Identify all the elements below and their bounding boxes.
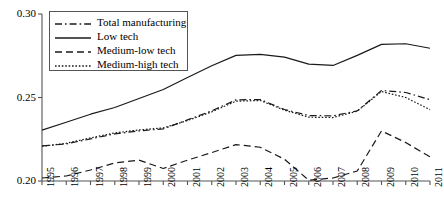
y-tick-label: 0.30 (0, 8, 36, 19)
y-tick-marks (38, 14, 42, 181)
legend-item: Medium-low tech (54, 43, 176, 57)
legend-label: Total manufacturing (97, 16, 186, 28)
x-tick-label: 2011 (434, 167, 444, 187)
x-tick-label: 2004 (264, 167, 274, 187)
x-tick-label: 2010 (410, 167, 420, 187)
x-tick-label: 2008 (361, 167, 371, 187)
x-tick-label: 2009 (386, 167, 396, 187)
legend-swatch-solid-icon (54, 30, 92, 42)
x-tick-label: 1998 (119, 167, 129, 187)
legend-swatch-dash-dot-icon (54, 16, 92, 28)
x-tick-label: 2007 (337, 167, 347, 187)
chart-legend: Total manufacturingLow techMedium-low te… (49, 11, 188, 71)
x-tick-label: 2000 (167, 167, 177, 187)
x-tick-label: 1999 (143, 167, 153, 187)
legend-swatch-dashed-icon (54, 44, 92, 56)
x-tick-label: 2006 (313, 167, 323, 187)
x-tick-label: 1995 (46, 167, 56, 187)
x-tick-label: 2002 (216, 167, 226, 187)
x-tick-label: 2005 (289, 167, 299, 187)
x-tick-label: 1996 (70, 167, 80, 187)
y-tick-label: 0.25 (0, 92, 36, 103)
x-tick-label: 2001 (192, 167, 202, 187)
legend-label: Low tech (97, 30, 138, 42)
legend-label: Medium-low tech (97, 44, 176, 56)
x-tick-label: 1997 (95, 167, 105, 187)
legend-item: Total manufacturing (54, 15, 186, 29)
legend-item: Medium-high tech (54, 57, 179, 71)
x-tick-label: 2003 (240, 167, 250, 187)
legend-label: Medium-high tech (97, 58, 179, 70)
legend-swatch-dotted-icon (54, 58, 92, 70)
legend-item: Low tech (54, 29, 138, 43)
y-tick-label: 0.20 (0, 175, 36, 186)
